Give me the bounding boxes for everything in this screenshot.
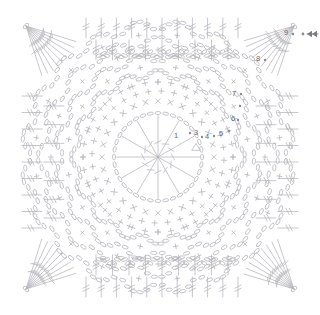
x-stitch bbox=[168, 100, 174, 106]
chain-stitch bbox=[267, 171, 271, 178]
chain-stitch bbox=[183, 188, 190, 194]
plus-stitch bbox=[106, 96, 113, 103]
chain-stitch bbox=[122, 64, 129, 69]
chain-stitch bbox=[173, 232, 180, 237]
chain-stitch bbox=[35, 110, 40, 117]
chain-stitch bbox=[179, 289, 186, 293]
chain-stitch bbox=[291, 172, 295, 179]
chain-stitch bbox=[162, 239, 169, 243]
chain-stitch bbox=[229, 244, 236, 251]
start-dot bbox=[302, 33, 305, 36]
chain-stitch bbox=[33, 205, 38, 212]
chain-stitch bbox=[40, 143, 44, 150]
x-stitch bbox=[156, 99, 161, 104]
treble-bar bbox=[269, 41, 275, 44]
plus-stitch bbox=[155, 229, 160, 234]
chain-stitch bbox=[88, 63, 95, 69]
chain-stitch bbox=[49, 82, 55, 89]
chain-stitch bbox=[269, 84, 275, 91]
chain-stitch bbox=[245, 220, 251, 227]
chain-stitch bbox=[261, 225, 267, 232]
plus-stitch bbox=[145, 89, 151, 95]
chain-stitch bbox=[190, 75, 197, 81]
chain-stitch bbox=[150, 27, 157, 30]
chain-stitch bbox=[90, 100, 97, 107]
treble-bar bbox=[271, 44, 278, 46]
plus-stitch bbox=[95, 125, 102, 132]
chain-stitch bbox=[35, 89, 41, 96]
chain-stitch bbox=[95, 217, 102, 224]
chain-stitch bbox=[276, 197, 281, 204]
chain-stitch bbox=[68, 194, 74, 201]
chain-stitch bbox=[22, 178, 26, 185]
chain-stitch bbox=[67, 106, 73, 113]
chain-stitch bbox=[218, 76, 225, 83]
chain-stitch bbox=[234, 189, 240, 196]
chain-stitch bbox=[144, 271, 151, 275]
chain-stitch bbox=[54, 241, 61, 248]
chain-stitch bbox=[279, 118, 284, 125]
chain-stitch bbox=[237, 241, 244, 248]
plus-stitch bbox=[98, 187, 105, 194]
chain-stitch bbox=[90, 106, 96, 113]
plus-stitch bbox=[79, 204, 86, 211]
chain-stitch bbox=[91, 232, 98, 239]
chain-stitch bbox=[170, 113, 177, 118]
chain-stitch bbox=[68, 255, 75, 262]
chain-stitch bbox=[183, 251, 190, 256]
chain-stitch bbox=[23, 165, 27, 172]
plus-stitch bbox=[214, 182, 221, 189]
chain-stitch bbox=[81, 193, 87, 200]
chain-stitch bbox=[291, 136, 295, 143]
chain-stitch bbox=[22, 129, 26, 136]
chain-stitch bbox=[196, 86, 203, 92]
chain-stitch bbox=[113, 86, 120, 92]
chain-stitch bbox=[181, 263, 188, 268]
chain-stitch bbox=[121, 182, 127, 189]
plus-stitch bbox=[91, 138, 97, 144]
chain-stitch bbox=[198, 34, 205, 39]
chain-stitch bbox=[49, 225, 55, 232]
crochet-chart-canvas: 13456789 bbox=[0, 0, 320, 315]
chain-stitch bbox=[136, 232, 143, 237]
x-stitch bbox=[131, 204, 137, 210]
arrow-head-second bbox=[312, 31, 317, 37]
round-number-label: 6 bbox=[231, 114, 235, 123]
chain-stitch bbox=[61, 55, 68, 62]
chain-stitch bbox=[267, 188, 272, 195]
chain-stitch bbox=[239, 213, 245, 220]
plus-stitch bbox=[171, 90, 177, 96]
chain-stitch bbox=[243, 106, 249, 113]
chain-stitch bbox=[140, 196, 147, 201]
chain-stitch bbox=[278, 102, 283, 109]
chain-stitch bbox=[173, 20, 180, 24]
chain-stitch bbox=[194, 229, 201, 235]
plus-stitch bbox=[81, 141, 87, 147]
chain-stitch bbox=[272, 143, 276, 150]
chain-stitch bbox=[72, 161, 76, 168]
chain-stitch bbox=[213, 31, 220, 37]
chain-stitch bbox=[213, 58, 220, 64]
chain-stitch bbox=[155, 112, 161, 115]
plus-stitch bbox=[184, 85, 190, 91]
x-stitch bbox=[199, 189, 205, 195]
treble-bar bbox=[42, 269, 49, 271]
chain-stitch bbox=[235, 141, 239, 148]
chain-stitch bbox=[213, 277, 220, 283]
round-dot bbox=[240, 93, 242, 95]
chain-stitch bbox=[72, 241, 79, 248]
plus-stitch bbox=[208, 207, 215, 214]
chain-stitch bbox=[107, 218, 114, 224]
chain-stitch bbox=[133, 192, 140, 198]
plus-stitch bbox=[212, 202, 219, 209]
treble-stem bbox=[122, 136, 158, 157]
plus-stitch bbox=[174, 33, 179, 38]
plus-stitch bbox=[184, 223, 190, 229]
plus-stitch bbox=[203, 211, 210, 218]
chain-stitch bbox=[113, 146, 117, 152]
chain-stitch bbox=[218, 213, 225, 220]
chain-stitch bbox=[115, 80, 122, 86]
chain-stitch bbox=[150, 283, 157, 286]
plus-stitch bbox=[229, 141, 235, 147]
plus-stitch bbox=[168, 80, 174, 86]
